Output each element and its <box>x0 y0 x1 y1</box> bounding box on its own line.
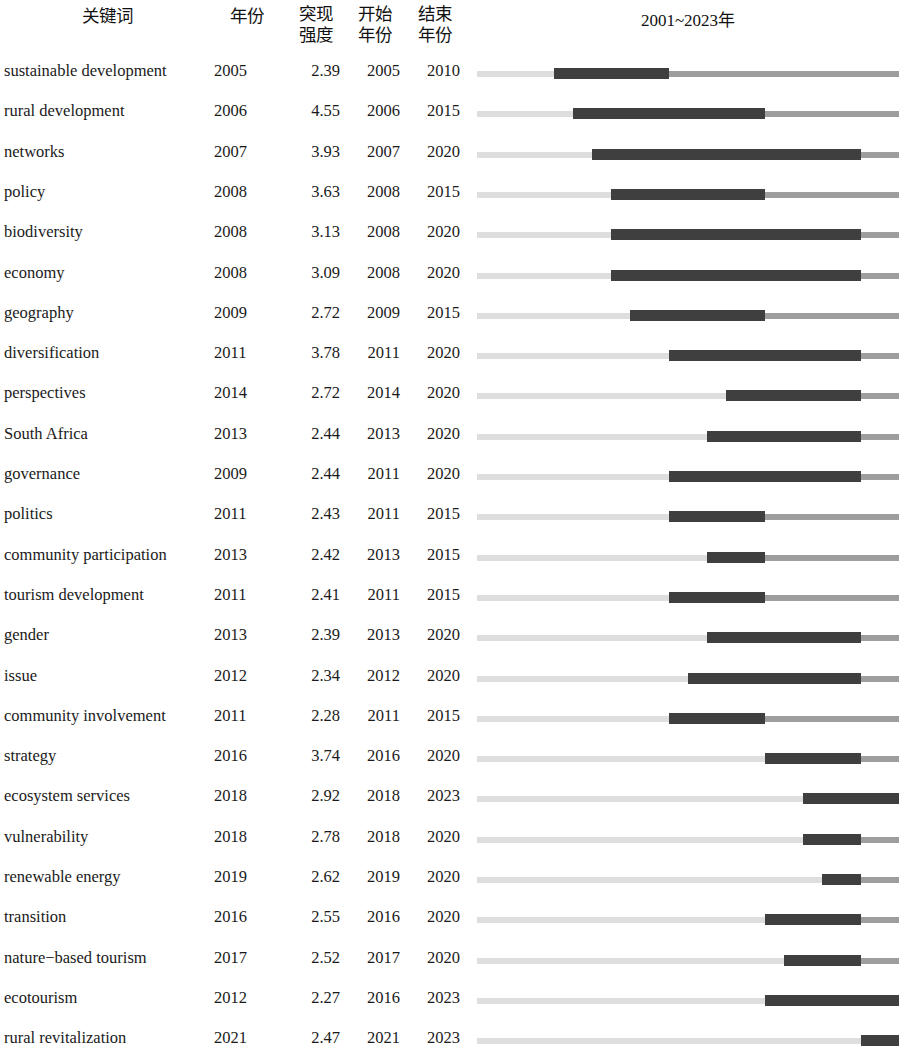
timeline-post-burst-segment <box>861 676 899 682</box>
row-keyword: nature−based tourism <box>4 947 214 969</box>
row-strength: 2.41 <box>288 584 340 606</box>
timeline-pre-burst-segment <box>477 111 573 117</box>
timeline-post-burst-segment <box>861 232 899 238</box>
row-begin-year: 2006 <box>348 100 400 122</box>
column-header-begin-year: 开始 年份 <box>346 4 404 46</box>
row-timeline <box>477 511 899 523</box>
row-strength: 2.55 <box>288 906 340 928</box>
timeline-pre-burst-segment <box>477 998 765 1004</box>
row-year: 2011 <box>214 705 276 727</box>
timeline-post-burst-segment <box>861 635 899 641</box>
timeline-post-burst-segment <box>861 152 899 158</box>
row-year: 2008 <box>214 181 276 203</box>
table-row: community participation20132.4220132015 <box>0 544 907 584</box>
row-end-year: 2020 <box>408 423 460 445</box>
row-strength: 3.78 <box>288 342 340 364</box>
row-strength: 3.13 <box>288 221 340 243</box>
row-begin-year: 2013 <box>348 423 400 445</box>
row-begin-year: 2011 <box>348 342 400 364</box>
timeline-post-burst-segment <box>861 434 899 440</box>
row-begin-year: 2009 <box>348 302 400 324</box>
row-begin-year: 2011 <box>348 503 400 525</box>
row-end-year: 2015 <box>408 705 460 727</box>
timeline-post-burst-segment <box>861 877 899 883</box>
row-year: 2006 <box>214 100 276 122</box>
timeline-pre-burst-segment <box>477 877 822 883</box>
row-year: 2011 <box>214 584 276 606</box>
row-end-year: 2020 <box>408 826 460 848</box>
row-year: 2012 <box>214 665 276 687</box>
row-strength: 2.42 <box>288 544 340 566</box>
table-row: issue20122.3420122020 <box>0 665 907 705</box>
row-strength: 2.39 <box>288 624 340 646</box>
timeline-pre-burst-segment <box>477 152 592 158</box>
timeline-burst-segment <box>592 149 861 160</box>
timeline-burst-segment <box>707 632 860 643</box>
row-keyword: policy <box>4 181 214 203</box>
timeline-pre-burst-segment <box>477 393 726 399</box>
timeline-burst-segment <box>669 471 861 482</box>
row-end-year: 2020 <box>408 141 460 163</box>
row-begin-year: 2007 <box>348 141 400 163</box>
row-keyword: rural revitalization <box>4 1027 214 1049</box>
timeline-burst-segment <box>803 793 899 804</box>
timeline-burst-segment <box>669 713 765 724</box>
row-strength: 2.39 <box>288 60 340 82</box>
row-timeline <box>477 390 899 402</box>
row-end-year: 2020 <box>408 906 460 928</box>
timeline-post-burst-segment <box>861 756 899 762</box>
column-header-end-year: 结束 年份 <box>406 4 464 46</box>
timeline-pre-burst-segment <box>477 474 669 480</box>
row-keyword: diversification <box>4 342 214 364</box>
row-end-year: 2020 <box>408 463 460 485</box>
row-end-year: 2015 <box>408 584 460 606</box>
timeline-pre-burst-segment <box>477 514 669 520</box>
row-keyword: strategy <box>4 745 214 767</box>
timeline-burst-segment <box>688 673 861 684</box>
timeline-pre-burst-segment <box>477 635 707 641</box>
row-timeline <box>477 229 899 241</box>
table-row: community involvement20112.2820112015 <box>0 705 907 745</box>
row-timeline <box>477 592 899 604</box>
timeline-post-burst-segment <box>861 393 899 399</box>
row-timeline <box>477 350 899 362</box>
row-year: 2019 <box>214 866 276 888</box>
row-keyword: community involvement <box>4 705 214 727</box>
table-row: rural revitalization20212.4720212023 <box>0 1027 907 1052</box>
timeline-post-burst-segment <box>765 514 899 520</box>
row-keyword: community participation <box>4 544 214 566</box>
timeline-post-burst-segment <box>765 313 899 319</box>
row-keyword: tourism development <box>4 584 214 606</box>
row-strength: 2.72 <box>288 382 340 404</box>
timeline-burst-segment <box>611 229 860 240</box>
column-header-strength: 突现 强度 <box>290 4 342 46</box>
row-timeline <box>477 914 899 926</box>
row-timeline <box>477 753 899 765</box>
table-row: sustainable development20052.3920052010 <box>0 60 907 100</box>
row-year: 2013 <box>214 423 276 445</box>
row-timeline <box>477 955 899 967</box>
row-strength: 2.44 <box>288 463 340 485</box>
timeline-post-burst-segment <box>765 716 899 722</box>
row-keyword: transition <box>4 906 214 928</box>
row-end-year: 2020 <box>408 221 460 243</box>
row-timeline <box>477 471 899 483</box>
timeline-pre-burst-segment <box>477 756 765 762</box>
row-strength: 2.52 <box>288 947 340 969</box>
row-end-year: 2020 <box>408 624 460 646</box>
timeline-burst-segment <box>669 511 765 522</box>
timeline-post-burst-segment <box>765 192 899 198</box>
timeline-burst-segment <box>861 1035 899 1046</box>
row-end-year: 2020 <box>408 745 460 767</box>
row-keyword: gender <box>4 624 214 646</box>
row-strength: 2.34 <box>288 665 340 687</box>
table-row: networks20073.9320072020 <box>0 141 907 181</box>
citation-burst-table: 关键词 年份 突现 强度 开始 年份 结束 年份 2001~2023年 sust… <box>0 0 907 1052</box>
table-row: diversification20113.7820112020 <box>0 342 907 382</box>
row-keyword: geography <box>4 302 214 324</box>
row-year: 2017 <box>214 947 276 969</box>
row-year: 2011 <box>214 342 276 364</box>
row-end-year: 2020 <box>408 262 460 284</box>
row-year: 2013 <box>214 624 276 646</box>
table-row: renewable energy20192.6220192020 <box>0 866 907 906</box>
